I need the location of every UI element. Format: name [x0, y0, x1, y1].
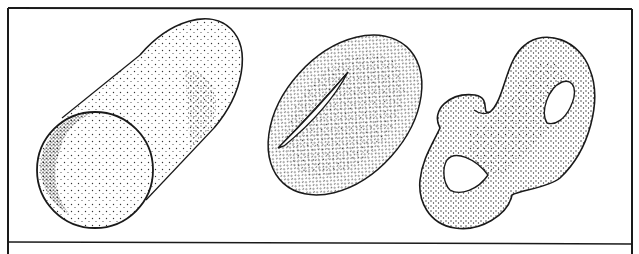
figure-frame: [0, 0, 639, 254]
double-torus-illustration: [420, 37, 595, 228]
cylinder-illustration: [37, 19, 242, 228]
